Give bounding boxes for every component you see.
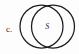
left-set-circle <box>20 5 63 48</box>
right-set-circle <box>32 5 75 48</box>
venn-figure: c. S <box>0 0 79 54</box>
intersection-label: S <box>45 22 49 31</box>
venn-diagram-svg: S <box>0 0 79 54</box>
